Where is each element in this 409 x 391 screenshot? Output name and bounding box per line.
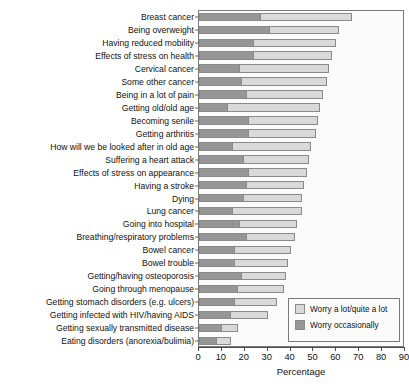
bar-segment-worry-occasionally bbox=[200, 40, 253, 46]
bar-segment-worry-a-lot bbox=[232, 208, 301, 214]
x-axis-tick bbox=[335, 347, 336, 351]
bar-segment-worry-occasionally bbox=[200, 65, 239, 71]
bar-segment-worry-occasionally bbox=[200, 312, 230, 318]
category-label: Getting old/old age bbox=[122, 103, 194, 112]
stacked-bar bbox=[199, 77, 327, 85]
bar-segment-worry-a-lot bbox=[241, 78, 326, 84]
x-axis-tick-label: 80 bbox=[376, 352, 386, 362]
x-axis-tick-label: 50 bbox=[307, 352, 317, 362]
bar-segment-worry-occasionally bbox=[200, 117, 248, 123]
stacked-bar bbox=[199, 311, 268, 319]
x-axis-tick bbox=[244, 347, 245, 351]
legend-label-worry-a-lot: Worry a lot/quite a lot bbox=[310, 305, 387, 314]
bar-row: Becoming senile bbox=[199, 115, 403, 127]
x-axis-tick-label: 60 bbox=[330, 352, 340, 362]
category-label: Going into hospital bbox=[123, 220, 194, 229]
bar-row: Effects of stress on health bbox=[199, 50, 403, 62]
bar-row: Dying bbox=[199, 192, 403, 204]
bar-segment-worry-occasionally bbox=[200, 104, 227, 110]
x-axis bbox=[198, 347, 404, 348]
bar-segment-worry-a-lot bbox=[243, 195, 301, 201]
x-axis-tick bbox=[404, 347, 405, 351]
stacked-bar bbox=[199, 272, 286, 280]
bar-segment-worry-a-lot bbox=[237, 286, 283, 292]
category-label: Becoming senile bbox=[131, 116, 194, 125]
bar-segment-worry-occasionally bbox=[200, 299, 234, 305]
x-axis-tick-label: 0 bbox=[195, 352, 200, 362]
legend-item-worry-a-lot: Worry a lot/quite a lot bbox=[295, 304, 394, 314]
bar-segment-worry-a-lot bbox=[234, 299, 275, 305]
category-label: Getting/having osteoporosis bbox=[87, 272, 194, 281]
category-label: Bowel trouble bbox=[142, 259, 194, 268]
legend-label-worry-occasionally: Worry occasionally bbox=[310, 321, 379, 330]
bar-segment-worry-occasionally bbox=[200, 273, 241, 279]
stacked-bar bbox=[199, 39, 336, 47]
chart-legend: Worry a lot/quite a lot Worry occasional… bbox=[288, 298, 400, 342]
bar-segment-worry-a-lot bbox=[253, 40, 336, 46]
stacked-bar bbox=[199, 220, 297, 228]
bar-segment-worry-a-lot bbox=[246, 182, 304, 188]
bar-segment-worry-occasionally bbox=[200, 91, 246, 97]
category-label: Going through menopause bbox=[92, 285, 194, 294]
bar-row: Having reduced mobility bbox=[199, 37, 403, 49]
bar-segment-worry-a-lot bbox=[248, 117, 317, 123]
stacked-bar bbox=[199, 337, 231, 345]
category-label: Effects of stress on health bbox=[95, 51, 194, 60]
x-axis-tick bbox=[221, 347, 222, 351]
category-label: Getting arthritis bbox=[136, 129, 194, 138]
legend-swatch-light bbox=[295, 304, 305, 314]
bar-segment-worry-a-lot bbox=[241, 273, 285, 279]
stacked-bar bbox=[199, 233, 295, 241]
stacked-bar bbox=[199, 285, 284, 293]
category-label: Having reduced mobility bbox=[102, 38, 194, 47]
bar-segment-worry-occasionally bbox=[200, 221, 239, 227]
x-axis-tick-label: 30 bbox=[261, 352, 271, 362]
legend-item-worry-occasionally: Worry occasionally bbox=[295, 320, 394, 330]
category-label: Eating disorders (anorexia/bulimia) bbox=[61, 337, 194, 346]
x-axis-tick-label: 10 bbox=[216, 352, 226, 362]
bar-segment-worry-occasionally bbox=[200, 195, 243, 201]
bar-row: Having a stroke bbox=[199, 180, 403, 192]
category-label: Effects of stress on appearance bbox=[73, 168, 194, 177]
stacked-bar bbox=[199, 155, 309, 163]
bar-segment-worry-occasionally bbox=[200, 14, 260, 20]
stacked-bar bbox=[199, 142, 311, 150]
stacked-bar bbox=[199, 168, 307, 176]
bar-segment-worry-occasionally bbox=[200, 208, 232, 214]
category-label: Lung cancer bbox=[147, 207, 194, 216]
bar-segment-worry-a-lot bbox=[243, 156, 307, 162]
stacked-bar bbox=[199, 51, 332, 59]
category-label: Breathing/respiratory problems bbox=[76, 233, 194, 242]
bar-segment-worry-a-lot bbox=[227, 104, 319, 110]
bar-segment-worry-a-lot bbox=[269, 27, 338, 33]
bar-row: Bowel cancer bbox=[199, 244, 403, 256]
category-label: Being in a lot of pain bbox=[116, 90, 194, 99]
stacked-bar bbox=[199, 207, 302, 215]
bar-segment-worry-occasionally bbox=[200, 325, 221, 331]
bar-row: Going through menopause bbox=[199, 283, 403, 295]
stacked-bar bbox=[199, 181, 304, 189]
bar-segment-worry-occasionally bbox=[200, 169, 248, 175]
stacked-bar bbox=[199, 129, 316, 137]
stacked-bar bbox=[199, 194, 302, 202]
bar-row: Breast cancer bbox=[199, 11, 403, 23]
bar-row: Lung cancer bbox=[199, 205, 403, 217]
x-axis-tick bbox=[267, 347, 268, 351]
category-label: Suffering a heart attack bbox=[105, 155, 194, 164]
plot-area: Breast cancerBeing overweightHaving redu… bbox=[198, 10, 404, 347]
stacked-bar bbox=[199, 259, 288, 267]
bar-row: Getting arthritis bbox=[199, 128, 403, 140]
bar-segment-worry-a-lot bbox=[221, 325, 237, 331]
bar-row: Breathing/respiratory problems bbox=[199, 231, 403, 243]
stacked-bar bbox=[199, 13, 352, 21]
x-axis-tick-label: 40 bbox=[284, 352, 294, 362]
category-label: Being overweight bbox=[128, 26, 194, 35]
bar-segment-worry-occasionally bbox=[200, 260, 234, 266]
bar-segment-worry-a-lot bbox=[248, 130, 315, 136]
x-axis-tick bbox=[358, 347, 359, 351]
bar-segment-worry-a-lot bbox=[239, 221, 297, 227]
bar-segment-worry-a-lot bbox=[260, 14, 352, 20]
bar-row: Bowel trouble bbox=[199, 257, 403, 269]
x-axis-tick bbox=[198, 347, 199, 351]
stacked-bar bbox=[199, 64, 329, 72]
